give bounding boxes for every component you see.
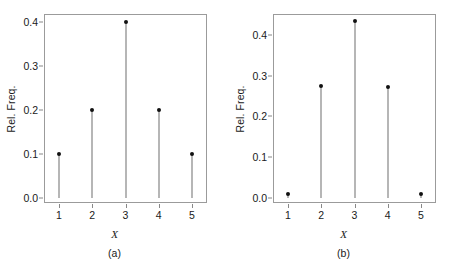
y-tick-label: 0.1 xyxy=(23,148,38,160)
stem-line xyxy=(192,154,193,198)
panel-a: Rel. Freq.0.00.10.20.30.412345X(a) xyxy=(0,0,229,271)
y-tick-label: 0.2 xyxy=(252,110,267,122)
figure: Rel. Freq.0.00.10.20.30.412345X(a) Rel. … xyxy=(0,0,458,271)
x-tick-mark xyxy=(59,204,60,208)
y-tick-mark xyxy=(39,109,43,110)
x-tick-mark xyxy=(126,204,127,208)
y-tick-label: 0.3 xyxy=(252,70,267,82)
x-tick-label: 1 xyxy=(285,209,291,221)
stem-line xyxy=(158,110,159,198)
x-tick-label: 3 xyxy=(123,209,129,221)
x-tick-mark xyxy=(321,204,322,208)
data-point xyxy=(286,192,290,196)
data-point xyxy=(319,84,323,88)
y-tick-mark xyxy=(268,197,272,198)
y-tick-mark xyxy=(268,157,272,158)
stem-line xyxy=(321,86,322,198)
data-point xyxy=(90,108,94,112)
x-axis-label: X xyxy=(229,228,458,240)
y-tick-label: 0.2 xyxy=(23,104,38,116)
x-axis-label: X xyxy=(0,228,229,240)
stem-line xyxy=(387,87,388,198)
x-tick-label: 5 xyxy=(418,209,424,221)
y-tick-mark xyxy=(39,21,43,22)
y-tick-mark xyxy=(39,65,43,66)
x-tick-label: 5 xyxy=(189,209,195,221)
stem-line xyxy=(58,154,59,198)
panel-b: Rel. Freq.0.00.10.20.30.412345X(b) xyxy=(229,0,458,271)
y-tick-mark xyxy=(268,75,272,76)
y-tick-mark xyxy=(39,153,43,154)
x-tick-label: 4 xyxy=(385,209,391,221)
y-tick-mark xyxy=(39,197,43,198)
x-tick-mark xyxy=(92,204,93,208)
panel-caption: (b) xyxy=(229,247,458,259)
x-tick-mark xyxy=(159,204,160,208)
y-tick-label: 0.1 xyxy=(252,151,267,163)
stem-line xyxy=(354,21,355,198)
stem-line xyxy=(125,22,126,198)
x-tick-mark xyxy=(388,204,389,208)
data-point xyxy=(124,20,128,24)
x-tick-mark xyxy=(355,204,356,208)
x-tick-mark xyxy=(192,204,193,208)
data-point xyxy=(353,19,357,23)
x-tick-label: 2 xyxy=(318,209,324,221)
data-point xyxy=(190,152,194,156)
x-tick-label: 2 xyxy=(89,209,95,221)
y-tick-label: 0.4 xyxy=(23,16,38,28)
data-point xyxy=(386,85,390,89)
x-tick-mark xyxy=(288,204,289,208)
y-tick-label: 0.0 xyxy=(252,192,267,204)
y-tick-mark xyxy=(268,116,272,117)
y-tick-label: 0.0 xyxy=(23,192,38,204)
x-tick-mark xyxy=(421,204,422,208)
y-tick-label: 0.3 xyxy=(23,60,38,72)
y-tick-label: 0.4 xyxy=(252,29,267,41)
panel-caption: (a) xyxy=(0,247,229,259)
x-tick-label: 3 xyxy=(352,209,358,221)
y-tick-mark xyxy=(268,35,272,36)
data-point xyxy=(57,152,61,156)
x-tick-label: 4 xyxy=(156,209,162,221)
x-tick-label: 1 xyxy=(56,209,62,221)
data-point xyxy=(419,192,423,196)
data-point xyxy=(157,108,161,112)
stem-line xyxy=(92,110,93,198)
